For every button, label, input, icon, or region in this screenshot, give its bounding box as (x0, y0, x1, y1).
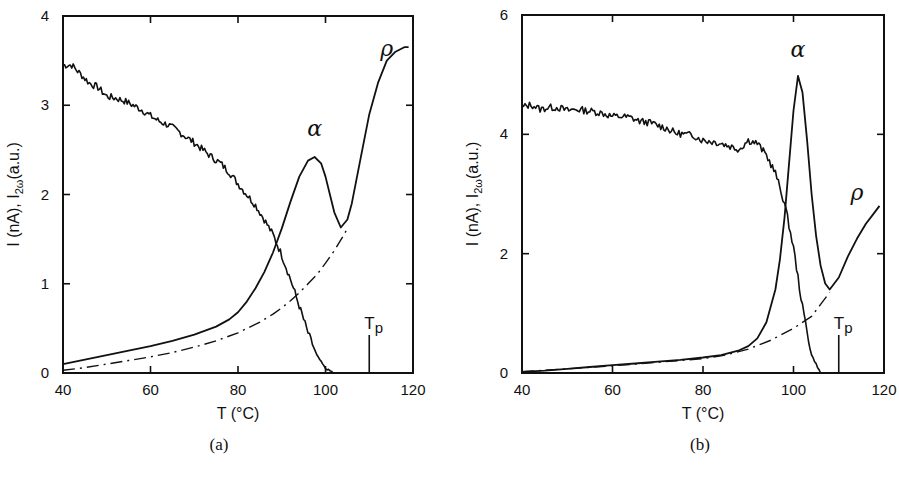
y-axis-title: I (nA), I2ω(a.u.) (5, 142, 25, 247)
tsc-current-line (522, 76, 880, 372)
shg-intensity-line (522, 102, 821, 373)
panel-caption: (a) (210, 435, 229, 454)
y-tick-label: 4 (500, 125, 508, 142)
x-tick-label: 60 (604, 381, 621, 398)
x-axis-title: T (°C) (682, 405, 725, 422)
chart-panel-a: 40608010012001234T (°C)I (nA), I2ω(a.u.)… (5, 7, 426, 454)
alpha-peak-label: α (791, 37, 806, 62)
y-tick-label: 1 (41, 275, 49, 292)
y-tick-label: 6 (500, 6, 508, 23)
x-axis-title: T (°C) (217, 405, 260, 422)
x-tick-label: 80 (230, 381, 247, 398)
x-tick-label: 120 (871, 381, 896, 398)
rho-peak-label: ρ (379, 36, 393, 61)
x-tick-label: 100 (781, 381, 806, 398)
figure-canvas: 40608010012001234T (°C)I (nA), I2ω(a.u.)… (0, 0, 899, 483)
x-tick-label: 100 (313, 381, 338, 398)
y-tick-label: 0 (41, 364, 49, 381)
y-tick-label: 0 (500, 364, 508, 381)
plot-frame (522, 15, 884, 373)
tp-label: Tp (834, 314, 853, 336)
plot-frame (63, 16, 413, 373)
y-tick-label: 2 (500, 245, 508, 262)
y-axis-title: I (nA), I2ω(a.u.) (464, 142, 484, 247)
panel-caption: (b) (690, 435, 710, 454)
x-tick-label: 80 (695, 381, 712, 398)
y-tick-label: 3 (41, 96, 49, 113)
x-tick-label: 120 (400, 381, 425, 398)
tp-label: Tp (364, 314, 383, 336)
tsc-current-line (63, 47, 409, 364)
x-tick-label: 40 (55, 381, 72, 398)
y-tick-label: 2 (41, 186, 49, 203)
chart-panel-b: 4060801001200246T (°C)I (nA), I2ω(a.u.)(… (464, 6, 897, 454)
alpha-peak-label: α (307, 116, 322, 141)
shg-intensity-line (63, 64, 334, 373)
baseline-dashdot-line (63, 228, 347, 370)
y-tick-label: 4 (41, 7, 49, 24)
x-tick-label: 60 (142, 381, 159, 398)
rho-peak-label: ρ (849, 180, 863, 205)
x-tick-label: 40 (514, 381, 531, 398)
